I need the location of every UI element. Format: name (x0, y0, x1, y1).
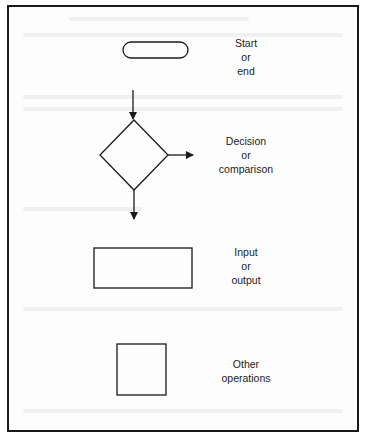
io-label: Input or output (191, 245, 301, 287)
label-line: Decision (191, 134, 301, 148)
decision-label: Decision or comparison (191, 134, 301, 176)
label-line: Input (191, 245, 301, 259)
label-line: Start (191, 36, 301, 50)
label-line: or (191, 259, 301, 273)
process-symbol (117, 344, 166, 395)
label-line: comparison (191, 162, 301, 176)
decision-symbol (100, 120, 168, 190)
process-label: Other operations (191, 357, 301, 385)
flowchart-symbols (0, 0, 367, 439)
terminal-label: Start or end (191, 36, 301, 78)
label-line: operations (191, 371, 301, 385)
terminal-symbol (123, 42, 188, 58)
label-line: or (191, 148, 301, 162)
label-line: output (191, 273, 301, 287)
label-line: Other (191, 357, 301, 371)
label-line: end (191, 64, 301, 78)
label-line: or (191, 50, 301, 64)
io-symbol (94, 248, 192, 288)
